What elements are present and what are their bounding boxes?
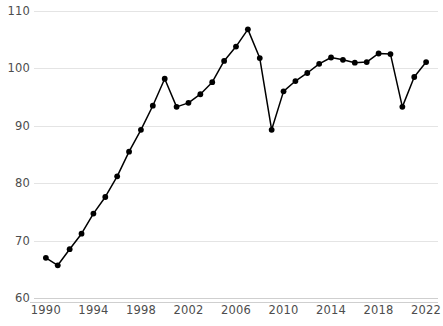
data-point <box>281 88 287 94</box>
line-chart: 60708090100110 1990199419982002200620102… <box>0 0 443 326</box>
data-point <box>79 231 85 237</box>
data-point <box>376 51 382 57</box>
data-point <box>233 44 239 50</box>
data-point <box>245 26 251 32</box>
y-tick-label: 110 <box>7 4 30 18</box>
data-point <box>150 103 156 109</box>
data-point <box>388 51 394 57</box>
data-point <box>221 58 227 64</box>
data-point <box>399 104 405 110</box>
data-point <box>269 127 275 133</box>
series-line-path <box>46 29 426 265</box>
data-point <box>316 61 322 67</box>
y-tick-label: 70 <box>15 234 30 248</box>
data-point <box>67 246 73 252</box>
data-point <box>328 55 334 61</box>
y-tick-label: 90 <box>15 119 30 133</box>
x-tick-label: 2014 <box>316 303 346 317</box>
x-tick-label: 2006 <box>221 303 251 317</box>
data-point <box>126 149 132 155</box>
data-point <box>186 100 192 106</box>
data-point <box>304 70 310 76</box>
data-point <box>162 76 168 82</box>
x-tick-label: 1998 <box>126 303 156 317</box>
x-axis: 199019941998200220062010201420182022 <box>0 303 443 326</box>
x-tick-label: 1994 <box>78 303 108 317</box>
data-point <box>209 79 215 85</box>
data-point <box>423 59 429 65</box>
x-tick-label: 2018 <box>364 303 394 317</box>
data-point <box>293 78 299 84</box>
data-point <box>340 57 346 63</box>
data-point <box>257 55 263 61</box>
x-tick-label: 2010 <box>268 303 298 317</box>
data-point <box>138 127 144 133</box>
data-point <box>411 74 417 80</box>
y-tick-label: 80 <box>15 176 30 190</box>
x-tick-label: 1990 <box>31 303 61 317</box>
data-point <box>114 173 120 179</box>
y-axis: 60708090100110 <box>0 0 30 326</box>
data-point <box>55 262 61 268</box>
data-point <box>43 255 49 261</box>
x-tick-label: 2002 <box>173 303 203 317</box>
data-point <box>174 104 180 110</box>
data-point <box>91 211 97 217</box>
data-point <box>197 91 203 97</box>
x-tick-label: 2022 <box>411 303 441 317</box>
chart-plot-svg <box>0 0 443 326</box>
data-point <box>102 194 108 200</box>
y-tick-label: 100 <box>7 61 30 75</box>
data-point <box>352 60 358 66</box>
data-point <box>364 59 370 65</box>
series-markers <box>43 26 429 268</box>
